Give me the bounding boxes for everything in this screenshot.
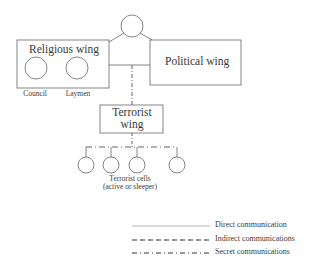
terrorist-cell-1 [78,157,94,173]
terrorist-cells-label-line2: (active or sleeper) [103,182,157,191]
edge-leadership-political [140,33,152,40]
legend-direct-label: Direct communication [215,220,287,229]
political-wing-label: Political wing [165,55,229,67]
terrorist-wing-label-line2: wing [121,118,144,130]
legend-secret-label: Secret communications [215,247,290,256]
terrorist-cell-2 [103,157,119,173]
terrorist-cell-3 [129,157,145,173]
laymen-label: Laymen [66,89,91,98]
council-node [25,57,47,79]
laymen-node [66,57,88,79]
religious-wing-label: Religious wing [29,43,99,55]
legend-indirect-label: Indirect communications [215,234,295,243]
terrorist-wing-label-line1: Terrorist [112,106,151,118]
leadership-node [121,15,143,37]
terrorist-cell-4 [169,157,185,173]
council-label: Council [23,89,47,98]
edge-leadership-religious [109,33,124,42]
